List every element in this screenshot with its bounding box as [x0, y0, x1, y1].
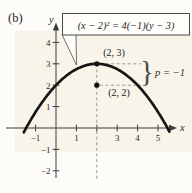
x-tick-label: 3 [115, 133, 120, 143]
vertex-point [94, 61, 99, 66]
x-tick-label: 4 [135, 133, 140, 143]
p-value-label: p = −1 [154, 67, 185, 78]
p-distance-brace: } [140, 55, 154, 87]
y-axis-label: y [48, 14, 54, 25]
equation-text: (x − 2)² = 4(−1)(y − 3) [78, 20, 175, 32]
parabola-figure-svg: −11345 −2−11234 (x − 2)² = 4(−1)(y − 3) … [0, 0, 192, 193]
y-tick-label: 3 [46, 59, 51, 69]
y-tick-label: 2 [46, 81, 51, 91]
panel-label: (b) [8, 11, 23, 25]
y-tick-label: −1 [41, 145, 51, 155]
x-tick-label: −1 [31, 133, 41, 143]
y-tick-label: −2 [41, 166, 51, 176]
figure-panel: −11345 −2−11234 (x − 2)² = 4(−1)(y − 3) … [0, 0, 192, 193]
x-tick-label: 1 [74, 133, 79, 143]
y-tick-label: 4 [46, 38, 51, 48]
vertex-label: (2, 3) [103, 47, 125, 59]
x-axis-label: x [179, 122, 185, 133]
focus-label: (2, 2) [108, 87, 130, 99]
focus-point [94, 83, 99, 88]
x-tick-label: 5 [156, 133, 161, 143]
y-tick-label: 1 [46, 102, 51, 112]
